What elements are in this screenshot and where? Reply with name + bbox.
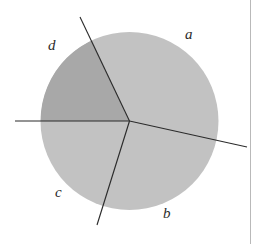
page-right-rule — [250, 0, 251, 244]
figure-canvas: a b c d — [0, 0, 261, 244]
region-label-b: b — [163, 206, 171, 221]
region-label-c: c — [55, 185, 62, 200]
region-label-a: a — [185, 27, 193, 42]
partitioned-disk-diagram — [0, 0, 261, 244]
region-label-d: d — [48, 38, 56, 53]
